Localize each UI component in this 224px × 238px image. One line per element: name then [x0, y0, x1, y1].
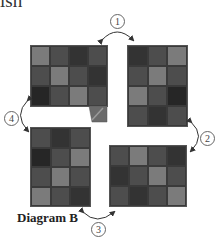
diagram-label: Diagram B	[17, 210, 78, 226]
step-2-marker: 2	[200, 131, 215, 146]
step-4-marker: 4	[4, 111, 19, 126]
rotation-arrows	[0, 0, 224, 238]
step-3-marker: 3	[91, 222, 106, 237]
step-1-marker: 1	[110, 14, 125, 29]
